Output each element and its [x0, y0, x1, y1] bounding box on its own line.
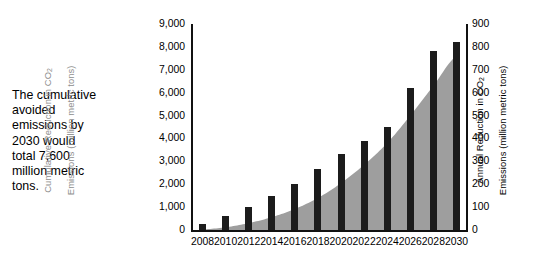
bar [291, 184, 298, 230]
bar [314, 169, 321, 230]
right-tick-label: 500 [472, 110, 512, 121]
bar [338, 154, 345, 230]
right-tick-label: 300 [472, 155, 512, 166]
left-axis-title: Cumulative Reduction in CO2 Emissions (m… [32, 30, 77, 230]
plot-area: 01,0002,0003,0004,0005,0006,0007,0008,00… [191, 24, 468, 232]
right-axis-title-line2: Emissions (million metric tons) [497, 65, 508, 195]
left-tick-label: 2,000 [145, 178, 185, 189]
bar [453, 42, 460, 230]
chart-figure: The cumulative avoided emissions by 2030… [0, 0, 535, 266]
right-axis-line [466, 24, 468, 232]
left-tick-label: 0 [145, 224, 185, 235]
bar [361, 141, 368, 230]
x-tick-label: 2014 [255, 236, 289, 247]
x-axis-line [191, 230, 468, 232]
x-tick-label: 2026 [393, 236, 427, 247]
right-tick-label: 800 [472, 41, 512, 52]
left-axis-line [191, 24, 193, 232]
x-tick-label: 2016 [278, 236, 312, 247]
x-tick-label: 2024 [370, 236, 404, 247]
left-tick-label: 8,000 [145, 41, 185, 52]
right-tick-label: 400 [472, 132, 512, 143]
left-tick-label: 3,000 [145, 155, 185, 166]
right-tick-label: 700 [472, 64, 512, 75]
right-axis-title-subscript: 2 [478, 77, 485, 81]
right-tick-label: 200 [472, 178, 512, 189]
bar [384, 127, 391, 230]
left-axis-title-line2: Emissions (million metric tons) [65, 65, 76, 195]
x-tick-label: 2018 [301, 236, 335, 247]
left-tick-label: 6,000 [145, 87, 185, 98]
left-tick-label: 9,000 [145, 18, 185, 29]
x-tick-label: 2012 [232, 236, 266, 247]
bar [407, 88, 414, 230]
left-tick-label: 7,000 [145, 64, 185, 75]
left-axis-title-line1: Cumulative Reduction in CO [41, 72, 52, 193]
x-tick-label: 2020 [324, 236, 358, 247]
left-tick-label: 1,000 [145, 201, 185, 212]
right-tick-label: 600 [472, 87, 512, 98]
x-tick-label: 2030 [439, 236, 473, 247]
right-tick-label: 100 [472, 201, 512, 212]
bar [222, 216, 229, 230]
x-tick-label: 2028 [416, 236, 450, 247]
x-tick-label: 2010 [209, 236, 243, 247]
right-tick-label: 0 [472, 224, 512, 235]
x-tick-label: 2022 [347, 236, 381, 247]
left-tick-label: 5,000 [145, 110, 185, 121]
bar [268, 196, 275, 230]
bar [430, 51, 437, 230]
cumulative-area-series [191, 24, 468, 232]
left-axis-title-subscript: 2 [46, 68, 53, 72]
left-tick-label: 4,000 [145, 132, 185, 143]
x-tick-label: 2008 [186, 236, 220, 247]
right-tick-label: 900 [472, 18, 512, 29]
bar [245, 207, 252, 230]
